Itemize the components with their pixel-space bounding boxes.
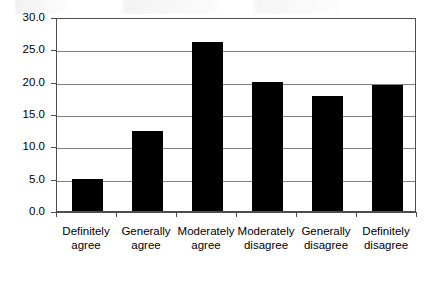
y-tick-label: 10.0 [23, 142, 45, 154]
x-tick-label-line2: disagree [356, 238, 416, 252]
x-tick-label-line2: disagree [296, 238, 356, 252]
x-tick-mark [416, 212, 417, 217]
x-tick-label-line1: Moderately [176, 224, 236, 238]
x-tick-label-line2: disagree [236, 238, 296, 252]
x-tick-mark [56, 212, 57, 217]
y-tick-label: 5.0 [29, 174, 45, 186]
x-tick-label: Generallyagree [116, 224, 176, 252]
plot-area [56, 18, 416, 212]
x-tick-label-line1: Generally [116, 224, 176, 238]
x-tick-label-line1: Moderately [236, 224, 296, 238]
x-tick-label: Definitelyagree [56, 224, 116, 252]
bar [132, 131, 163, 211]
x-tick-label: Moderatelydisagree [236, 224, 296, 252]
x-tick-label: Moderatelyagree [176, 224, 236, 252]
bar-chart: 30.025.020.015.010.05.00.0 Definitelyagr… [0, 0, 439, 281]
y-tick-label: 25.0 [23, 45, 45, 57]
y-tick-label: 0.0 [29, 206, 45, 218]
x-tick-label-line1: Definitely [56, 224, 116, 238]
bar [72, 179, 103, 211]
bar [192, 42, 223, 211]
x-tick-label-line1: Generally [296, 224, 356, 238]
x-tick-label-line1: Definitely [356, 224, 416, 238]
x-tick-label-line2: agree [176, 238, 236, 252]
x-tick-mark [176, 212, 177, 217]
x-tick-mark [116, 212, 117, 217]
y-tick-label: 20.0 [23, 77, 45, 89]
x-tick-label-line2: agree [116, 238, 176, 252]
bar [252, 82, 283, 211]
y-tick-label: 30.0 [23, 12, 45, 24]
y-axis: 30.025.020.015.010.05.00.0 [0, 0, 56, 281]
x-tick-mark [356, 212, 357, 217]
bar [312, 96, 343, 211]
x-tick-mark [296, 212, 297, 217]
bar [372, 85, 403, 211]
x-tick-label: Definitelydisagree [356, 224, 416, 252]
x-tick-mark [236, 212, 237, 217]
x-tick-label: Generallydisagree [296, 224, 356, 252]
bars-layer [57, 19, 415, 211]
y-tick-label: 15.0 [23, 109, 45, 121]
scan-artifact [0, 0, 439, 14]
x-tick-label-line2: agree [56, 238, 116, 252]
